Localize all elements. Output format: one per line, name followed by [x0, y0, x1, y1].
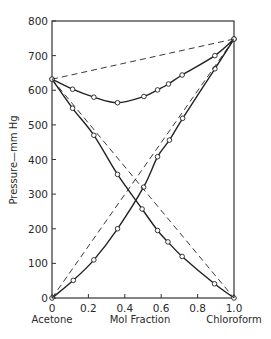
data-point-marker: [180, 73, 185, 78]
y-tick-label: 200: [28, 223, 48, 235]
data-point-marker: [92, 95, 97, 100]
data-point-marker: [142, 94, 147, 99]
x-tick-label: 1.0: [226, 302, 243, 314]
data-point-marker: [115, 226, 120, 231]
x-tick-label: 0.2: [80, 302, 97, 314]
y-axis-title: Pressure—mm Hg: [8, 115, 19, 204]
x-tick-label: 0.4: [116, 302, 133, 314]
y-tick-label: 600: [28, 84, 48, 96]
y-tick-label: 100: [28, 257, 48, 269]
data-point-marker: [155, 228, 160, 233]
series-line-0: [52, 39, 234, 103]
plot-border: [52, 21, 234, 298]
x-axis-title: Mol Fraction: [110, 314, 171, 325]
x-axis-left-component-label: Acetone: [32, 314, 73, 325]
data-point-marker: [180, 116, 185, 121]
data-point-marker: [140, 207, 145, 212]
x-axis-right-component-label: Chloroform: [206, 314, 262, 325]
data-point-marker: [115, 172, 120, 177]
data-point-marker: [92, 258, 97, 263]
y-tick-label: 300: [28, 188, 48, 200]
data-point-marker: [155, 88, 160, 93]
x-tick-label: 0.8: [189, 302, 206, 314]
ticks-layer: 010020030040050060070080000.20.40.60.81.…: [28, 15, 242, 314]
data-point-marker: [70, 106, 75, 111]
plot-frame: [52, 21, 234, 298]
x-tick-label: 0.6: [153, 302, 170, 314]
series-line-5: [52, 39, 234, 298]
vapor-pressure-chart: 010020030040050060070080000.20.40.60.81.…: [0, 0, 271, 339]
series-layer: [50, 37, 237, 301]
x-tick-label: 0: [49, 302, 56, 314]
y-tick-label: 500: [28, 119, 48, 131]
data-point-marker: [92, 133, 97, 138]
series-line-4: [52, 79, 234, 298]
data-point-marker: [70, 87, 75, 92]
data-point-marker: [167, 138, 172, 143]
y-tick-label: 0: [41, 292, 48, 304]
data-point-marker: [166, 82, 171, 87]
data-point-marker: [212, 282, 217, 287]
data-point-marker: [155, 154, 160, 159]
data-point-marker: [166, 240, 171, 245]
data-point-marker: [71, 278, 76, 283]
series-line-3: [52, 39, 234, 79]
data-point-marker: [213, 53, 218, 58]
series-line-2: [52, 39, 234, 298]
y-tick-label: 400: [28, 154, 48, 166]
y-tick-label: 800: [28, 15, 48, 27]
y-tick-label: 700: [28, 50, 48, 62]
data-point-marker: [180, 254, 185, 259]
data-point-marker: [115, 100, 120, 105]
